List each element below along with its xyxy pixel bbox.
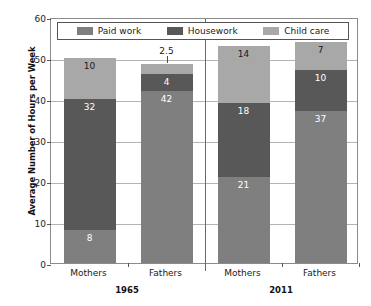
x-axis-label-1965-fathers: Fathers <box>126 268 206 278</box>
bar-segment-child-care[interactable]: 10 <box>64 58 116 99</box>
plot-area: 0102030405060103282.544214182171037 <box>50 18 358 264</box>
legend-label: Paid work <box>98 26 141 36</box>
bar-2011-mothers[interactable]: 141821 <box>218 46 270 263</box>
y-axis-tick-mark <box>47 183 51 184</box>
bar-segment-housework[interactable]: 18 <box>218 103 270 177</box>
bar-segment-value-label: 2.5 <box>159 46 173 56</box>
bar-segment-value-label: 4 <box>141 78 193 87</box>
callout-leader-line <box>167 56 168 63</box>
bar-segment-value-label: 18 <box>218 107 270 116</box>
bar-segment-child-care[interactable]: 14 <box>218 46 270 103</box>
bar-segment-value-label: 32 <box>64 103 116 112</box>
bar-segment-value-label: 8 <box>64 234 116 243</box>
legend-label: Child care <box>284 26 329 36</box>
group-label-1965: 1965 <box>87 285 167 295</box>
x-axis-tick-mark <box>359 263 360 267</box>
y-axis-tick-mark <box>47 224 51 225</box>
legend-item-housework[interactable]: Housework <box>167 26 238 36</box>
y-axis-tick-mark <box>47 101 51 102</box>
bar-2011-fathers[interactable]: 71037 <box>295 42 347 263</box>
y-axis-tick-mark <box>47 142 51 143</box>
y-axis-tick-mark <box>47 60 51 61</box>
legend-label: Housework <box>188 26 238 36</box>
bar-segment-child-care[interactable]: 7 <box>295 42 347 71</box>
x-axis-label-2011-fathers: Fathers <box>280 268 360 278</box>
x-axis-label-1965-mothers: Mothers <box>49 268 129 278</box>
bar-segment-value-label: 21 <box>218 181 270 190</box>
bar-segment-paid-work[interactable]: 42 <box>141 91 193 263</box>
bar-segment-value-label: 10 <box>64 62 116 71</box>
bar-segment-housework[interactable]: 4 <box>141 74 193 90</box>
y-axis-tick-mark <box>47 19 51 20</box>
bar-segment-value-label: 37 <box>295 115 347 124</box>
legend-item-paid-work[interactable]: Paid work <box>77 26 141 36</box>
legend-swatch <box>263 27 279 35</box>
bar-segment-housework[interactable]: 10 <box>295 70 347 111</box>
group-label-2011: 2011 <box>241 285 321 295</box>
bar-segment-paid-work[interactable]: 21 <box>218 177 270 263</box>
legend-item-child-care[interactable]: Child care <box>263 26 329 36</box>
legend-swatch <box>77 27 93 35</box>
bar-segment-paid-work[interactable]: 8 <box>64 230 116 263</box>
chart-legend: Paid workHouseworkChild care <box>57 22 349 40</box>
bar-1965-mothers[interactable]: 10328 <box>64 58 116 263</box>
bar-segment-value-label: 14 <box>218 50 270 59</box>
x-axis-tick-mark <box>128 263 129 267</box>
bar-segment-value-label: 7 <box>295 46 347 55</box>
x-axis-tick-mark <box>282 263 283 267</box>
bar-segment-paid-work[interactable]: 37 <box>295 111 347 263</box>
legend-swatch <box>167 27 183 35</box>
stacked-bar-chart: Average Number of Hours per Week 0102030… <box>0 0 371 306</box>
group-divider <box>205 19 206 271</box>
bar-segment-value-label: 10 <box>295 74 347 83</box>
x-axis-label-2011-mothers: Mothers <box>203 268 283 278</box>
bar-1965-fathers[interactable]: 2.5442 <box>141 64 193 263</box>
bar-segment-housework[interactable]: 32 <box>64 99 116 230</box>
y-axis-tick-mark <box>47 265 51 266</box>
bar-segment-child-care[interactable]: 2.5 <box>141 64 193 74</box>
bar-segment-value-label: 42 <box>141 95 193 104</box>
